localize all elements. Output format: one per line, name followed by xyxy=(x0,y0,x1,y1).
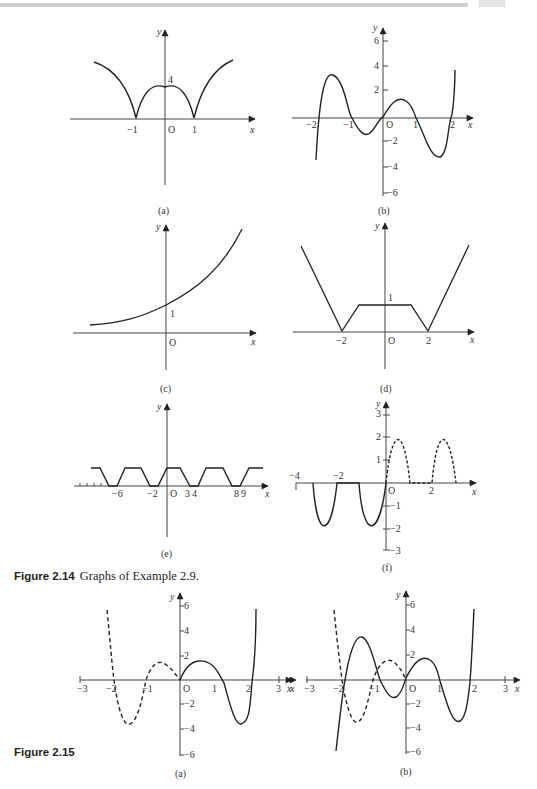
tick-label: 2 xyxy=(410,649,415,660)
tick-label: −4 xyxy=(387,161,398,172)
subfigure-caption: (a) xyxy=(158,205,169,217)
tick-label: −4 xyxy=(184,723,195,734)
plot-2-14f: y x −4 −2 O 2 3 2 1 −1 −2 −3 (f) xyxy=(289,398,477,574)
origin-label: O xyxy=(170,488,177,499)
origin-label: O xyxy=(169,337,176,348)
tick-label: 6 xyxy=(374,35,379,46)
x-axis-label: x xyxy=(249,124,255,135)
y-axis-label: y xyxy=(155,221,161,232)
tick-label: 8 xyxy=(234,488,239,499)
figure-caption-text: Graphs of Example 2.9. xyxy=(80,569,199,583)
tick-label: 3 xyxy=(503,683,508,694)
x-axis-label: x xyxy=(514,683,520,694)
curve-solid xyxy=(313,483,386,526)
figure-label: Figure 2.14 xyxy=(14,570,75,582)
origin-label: O xyxy=(388,485,395,496)
subfigure-caption: (d) xyxy=(380,383,392,395)
plot-2-14b: y x −2 −1 O 1 2 6 4 2 −2 −4 −6 (b) xyxy=(292,22,473,217)
tick-label: 1 xyxy=(170,308,175,319)
curve-dashed xyxy=(386,440,456,484)
subfigure-caption: (f) xyxy=(382,562,392,574)
tick-label: −2 xyxy=(336,335,347,346)
tick-label: −2 xyxy=(106,683,117,694)
subfigure-caption: (e) xyxy=(161,548,172,560)
figure-2-14-caption: Figure 2.14Graphs of Example 2.9. xyxy=(14,569,199,584)
curve-dashed xyxy=(334,610,406,722)
plot-2-14a: y x −1 O 1 4 (a) xyxy=(70,26,255,217)
tick-label: −1 xyxy=(142,683,153,694)
tick-label: 4 xyxy=(374,60,379,71)
tick-label: 2 xyxy=(472,683,477,694)
tick-label: −1 xyxy=(369,683,380,694)
x-axis-label: x xyxy=(467,119,473,130)
tick-label: −2 xyxy=(387,135,398,146)
tick-label: 4 xyxy=(184,625,189,636)
x-axis-label: x xyxy=(471,486,477,497)
figure-label: Figure 2.15 xyxy=(14,746,75,758)
tick-label: 2 xyxy=(184,650,189,661)
y-axis-label: y xyxy=(372,22,378,33)
tick-label: −2 xyxy=(184,698,195,709)
curve-solid xyxy=(91,468,263,486)
tick-label: 2 xyxy=(426,335,431,346)
tick-label: −6 xyxy=(112,488,123,499)
plot-2-14e: y x −6 −2 O 3 4 8 9 (e) xyxy=(74,401,270,560)
y-axis-label: y xyxy=(156,401,162,412)
origin-label: O xyxy=(183,683,190,694)
tick-label: −2 xyxy=(147,488,158,499)
tick-label: 1 xyxy=(192,124,197,135)
tick-label: −1 xyxy=(343,119,354,130)
tick-label: −6 xyxy=(410,746,421,757)
figure-2-15-caption: Figure 2.15 xyxy=(14,745,80,760)
origin-label: O xyxy=(386,119,393,130)
tick-label: 1 xyxy=(212,683,217,694)
tick-label: 2 xyxy=(246,683,251,694)
tick-label: −2 xyxy=(390,523,401,534)
plot-2-15a: y x −3 −2 −1 O 1 2 3 6 4 2 −2 −4 −6 (a) xyxy=(77,591,292,780)
tick-label: 4 xyxy=(192,488,197,499)
tick-label: 2 xyxy=(429,485,434,496)
curve-solid xyxy=(94,60,233,118)
tick-label: −2 xyxy=(333,470,344,481)
origin-label: O xyxy=(168,124,175,135)
subfigure-caption: (b) xyxy=(400,766,412,778)
tick-label: 3 xyxy=(376,408,381,419)
tick-label: 4 xyxy=(168,74,173,85)
y-axis-label: y xyxy=(156,26,162,37)
x-axis-label: x xyxy=(264,488,270,499)
tick-label: −3 xyxy=(390,545,401,556)
tick-label: −2 xyxy=(410,698,421,709)
x-axis-label: x xyxy=(469,334,475,345)
tick-label: −4 xyxy=(289,470,300,481)
tick-label: −6 xyxy=(387,187,398,198)
tick-label: 6 xyxy=(410,599,415,610)
y-axis-label: y xyxy=(374,220,380,231)
curve-dashed xyxy=(107,610,180,724)
tick-label: 2 xyxy=(374,84,379,95)
y-axis-label: y xyxy=(395,589,401,600)
tick-label: 9 xyxy=(241,488,246,499)
tick-label: −2 xyxy=(333,683,344,694)
plot-2-14d: y x −2 O 2 1 (d) xyxy=(293,220,475,395)
subfigure-caption: (a) xyxy=(175,768,186,780)
tick-label: −1 xyxy=(390,500,401,511)
x-axis-label-left: x xyxy=(289,683,295,694)
tick-label: −2 xyxy=(306,119,317,130)
tick-label: −1 xyxy=(127,124,138,135)
y-axis-label: y xyxy=(169,591,175,602)
tick-label: −3 xyxy=(77,683,88,694)
tick-label: 6 xyxy=(184,600,189,611)
tick-label: −6 xyxy=(184,749,195,760)
tick-label: 1 xyxy=(388,292,393,303)
tick-label: 1 xyxy=(437,683,442,694)
tick-label: −3 xyxy=(304,683,315,694)
tick-label: 4 xyxy=(410,624,415,635)
tick-label: 2 xyxy=(376,431,381,442)
x-axis-label: x xyxy=(250,336,256,347)
tick-label: 1 xyxy=(413,119,418,130)
tick-label: 2 xyxy=(450,119,455,130)
tick-label: 3 xyxy=(185,488,190,499)
tick-label: −4 xyxy=(410,722,421,733)
subfigure-caption: (c) xyxy=(160,383,171,395)
figure-canvas: y x −1 O 1 4 (a) y x −2 −1 O 1 2 6 4 2 −… xyxy=(0,0,537,789)
